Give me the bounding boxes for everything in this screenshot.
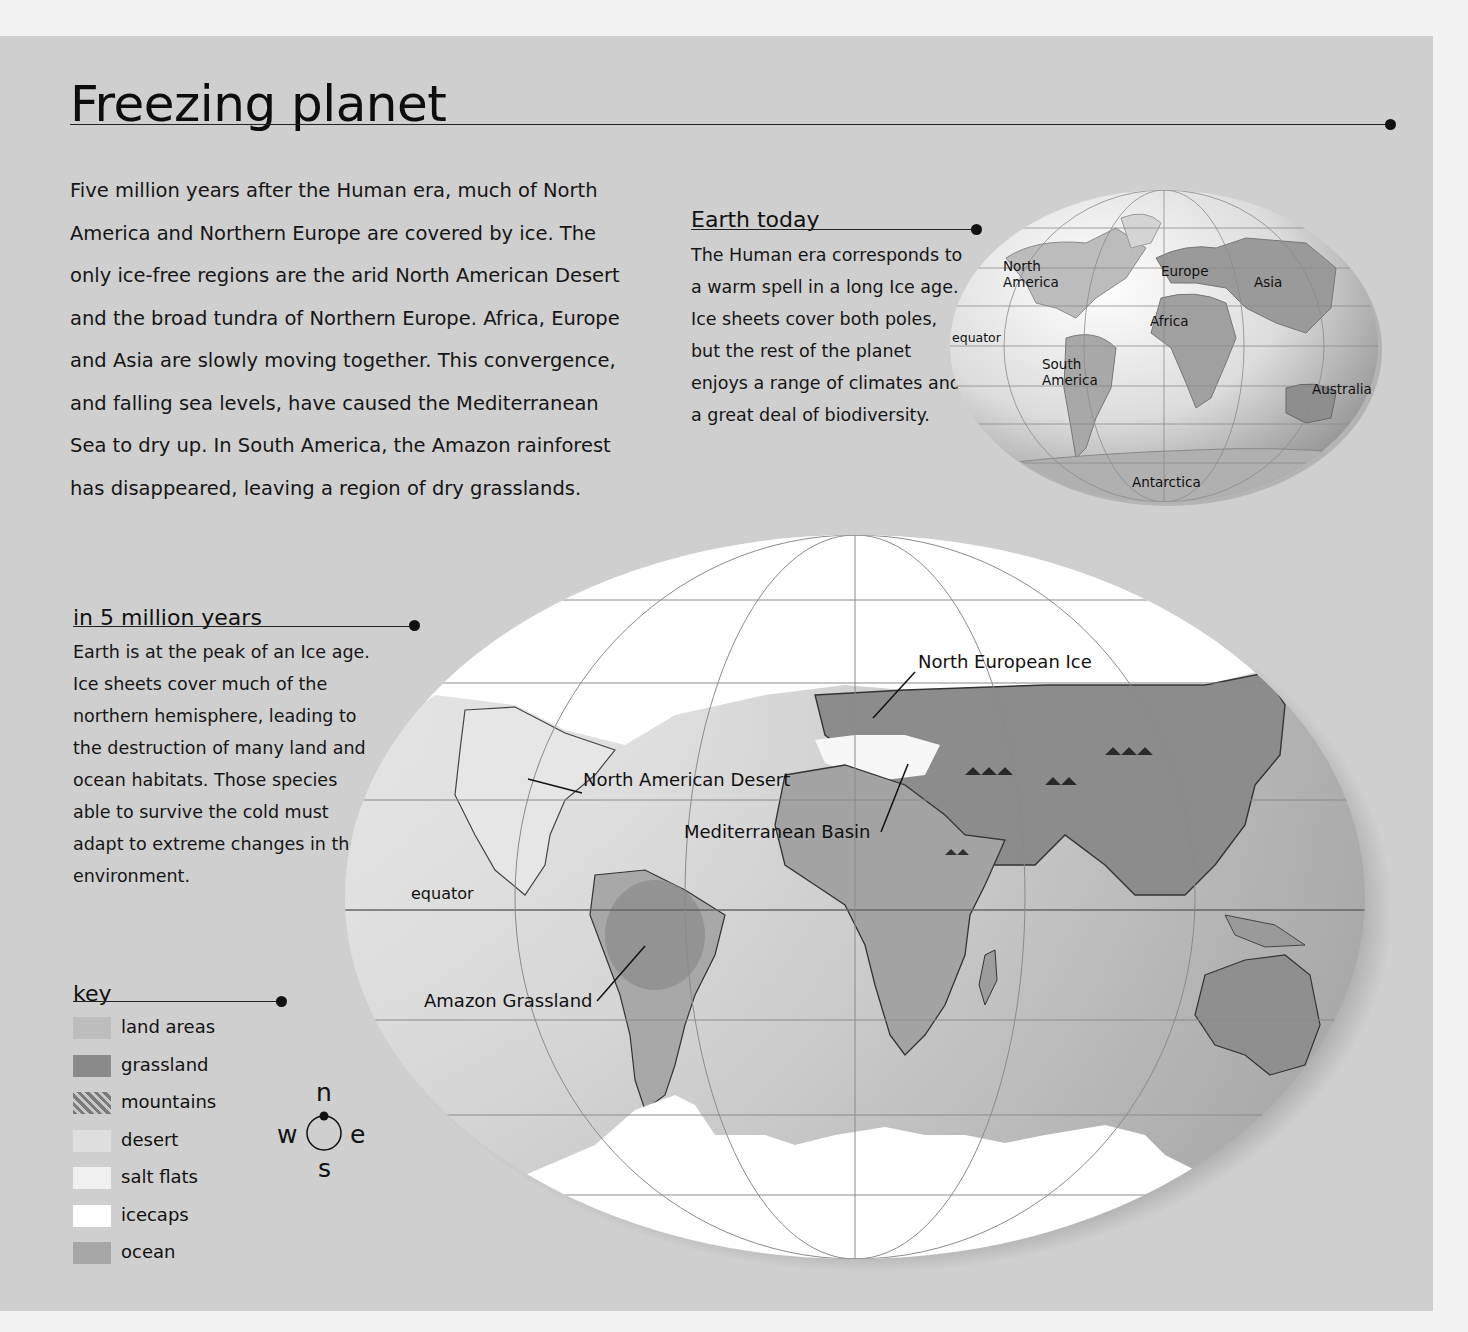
compass-circle-icon	[304, 1110, 344, 1154]
earth-today-rule	[691, 229, 973, 230]
key-rule-dot	[276, 996, 287, 1007]
salt-flats-swatch	[73, 1167, 111, 1189]
key-label: desert	[121, 1128, 178, 1152]
today-label-africa: Africa	[1150, 314, 1189, 329]
key-label: grassland	[121, 1053, 208, 1077]
compass-rose: n w e s	[272, 1080, 372, 1190]
label-amazon-grassland: Amazon Grassland	[424, 991, 592, 1011]
earth-today-body: The Human era corresponds to a warm spel…	[691, 239, 971, 431]
title-rule	[70, 124, 1390, 125]
key-label: icecaps	[121, 1203, 189, 1227]
key-label: mountains	[121, 1090, 216, 1114]
key-label: land areas	[121, 1015, 215, 1039]
key-label: ocean	[121, 1240, 175, 1264]
key-rule	[73, 1001, 281, 1002]
compass-south: s	[318, 1156, 331, 1182]
mountains-swatch	[73, 1092, 111, 1114]
label-north-european-ice: North European Ice	[918, 652, 1092, 672]
key-label: salt flats	[121, 1165, 198, 1189]
label-north-american-desert: North American Desert	[583, 770, 790, 790]
today-label-antarctica: Antarctica	[1132, 475, 1201, 490]
grassland-swatch	[73, 1055, 111, 1077]
title-rule-dot	[1385, 119, 1396, 130]
today-label-australia: Australia	[1312, 382, 1372, 397]
today-label-north-america: North America	[1003, 258, 1073, 290]
compass-north: n	[316, 1080, 332, 1106]
earth-today-map	[946, 188, 1386, 506]
ocean-swatch	[73, 1242, 111, 1264]
today-label-europe: Europe	[1161, 264, 1208, 279]
compass-west: w	[277, 1122, 297, 1148]
today-label-asia: Asia	[1254, 275, 1282, 290]
land-areas-swatch	[73, 1017, 111, 1039]
label-mediterranean-basin: Mediterranean Basin	[684, 822, 871, 842]
key-heading: key	[73, 982, 112, 1006]
today-label-south-america: South America	[1042, 356, 1112, 388]
future-earth-map	[345, 535, 1415, 1265]
label-equator: equator	[411, 886, 474, 901]
icecaps-swatch	[73, 1205, 111, 1227]
compass-east: e	[350, 1122, 365, 1148]
today-label-equator: equator	[952, 330, 1001, 345]
future-body: Earth is at the peak of an Ice age. Ice …	[73, 636, 373, 892]
intro-paragraph: Five million years after the Human era, …	[70, 170, 630, 510]
desert-swatch	[73, 1130, 111, 1152]
